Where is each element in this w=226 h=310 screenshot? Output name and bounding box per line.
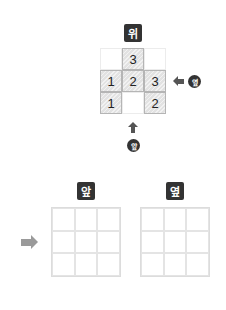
answer-cell[interactable]: [164, 208, 187, 231]
answer-cell[interactable]: [52, 253, 75, 276]
answer-cell[interactable]: [186, 208, 209, 231]
answer-cell[interactable]: [164, 231, 187, 254]
grid-cell-r2c2: 2: [122, 70, 144, 92]
grid-cell-r3c1: 1: [100, 92, 122, 114]
grid-cell-r1c3: [144, 48, 166, 70]
answer-cell[interactable]: [75, 231, 98, 254]
answer-cell[interactable]: [186, 253, 209, 276]
answer-cell[interactable]: [75, 253, 98, 276]
grid-cell-r1c2: 3: [122, 48, 144, 70]
arrow-up-icon: [128, 122, 138, 133]
grid-cell-r2c1: 1: [100, 70, 122, 92]
front-badge: 앞: [127, 139, 140, 152]
arrow-left-icon: [173, 76, 184, 86]
front-view-answer-grid[interactable]: [51, 207, 121, 277]
grid-cell-r3c3: 2: [144, 92, 166, 114]
answer-cell[interactable]: [75, 208, 98, 231]
side-badge: 옆: [188, 75, 201, 88]
grid-cell-r3c2: [122, 92, 144, 114]
answer-cell[interactable]: [97, 253, 120, 276]
arrow-right-icon: [21, 235, 38, 249]
answer-cell[interactable]: [141, 208, 164, 231]
grid-cell-r2c3: 3: [144, 70, 166, 92]
answer-cell[interactable]: [97, 231, 120, 254]
front-view-label: 앞: [77, 182, 95, 200]
side-view-answer-grid[interactable]: [140, 207, 210, 277]
answer-cell[interactable]: [141, 231, 164, 254]
side-view-label: 옆: [166, 182, 184, 200]
answer-cell[interactable]: [186, 231, 209, 254]
answer-cell[interactable]: [52, 208, 75, 231]
answer-cell[interactable]: [52, 231, 75, 254]
top-view-grid: 3 1 2 3 1 2: [100, 48, 166, 114]
grid-cell-r1c1: [100, 48, 122, 70]
answer-cell[interactable]: [141, 253, 164, 276]
top-view-label: 위: [124, 24, 142, 42]
answer-cell[interactable]: [97, 208, 120, 231]
answer-cell[interactable]: [164, 253, 187, 276]
